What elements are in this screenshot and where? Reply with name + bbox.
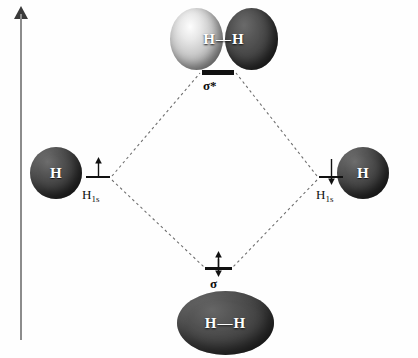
- atomic-orbital-left-sphere: H: [30, 147, 82, 199]
- ao-right-label-sub: 1s: [325, 194, 333, 204]
- atomic-orbital-right-sphere: H: [337, 147, 389, 199]
- corr-line-right-to-antibonding: [236, 73, 317, 176]
- energy-level-antibonding: [202, 70, 234, 75]
- electron-arrow-down-bonding: [214, 259, 223, 277]
- bonding-orbital-label: H—H: [205, 315, 246, 332]
- bonding-orbital-picture: H—H: [177, 291, 274, 355]
- atomic-orbital-left-sphere-label: H: [50, 165, 62, 182]
- energy-level-ao-left-label: H1s: [82, 187, 99, 203]
- energy-level-antibonding-label: σ*: [203, 78, 217, 94]
- atomic-orbital-right-sphere-label: H: [357, 165, 369, 182]
- corr-line-left-to-antibonding: [112, 73, 200, 176]
- corr-line-right-to-bonding: [233, 180, 317, 267]
- energy-level-bonding-label: σ: [210, 276, 217, 292]
- antibonding-orbital-label: H—H: [170, 8, 278, 70]
- corr-line-left-to-bonding: [112, 180, 204, 267]
- ao-right-label-text: H: [316, 187, 325, 202]
- energy-level-ao-right-label: H1s: [316, 187, 333, 203]
- mo-diagram-figure: H—H σ* H H1s H H1s: [0, 0, 418, 358]
- electron-arrow-up-ao-left: [94, 157, 103, 177]
- energy-axis: [20, 14, 22, 340]
- antibonding-orbital-picture: H—H: [170, 8, 278, 70]
- electron-arrow-down-ao-right: [327, 159, 336, 185]
- ao-left-label-text: H: [82, 187, 91, 202]
- ao-left-label-sub: 1s: [91, 194, 99, 204]
